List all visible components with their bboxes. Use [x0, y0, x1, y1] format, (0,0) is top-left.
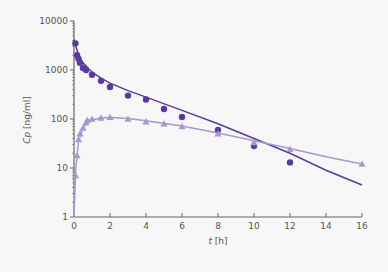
- x-tick-label: 8: [215, 221, 221, 231]
- circle-marker: [72, 40, 78, 46]
- circle-marker: [161, 106, 167, 112]
- x-tick-label: 12: [284, 221, 295, 231]
- circle-marker: [107, 84, 113, 90]
- circle-marker: [179, 114, 185, 120]
- x-tick-label: 2: [107, 221, 113, 231]
- x-tick-label: 0: [71, 221, 77, 231]
- x-tick-label: 4: [143, 221, 149, 231]
- x-tick-label: 14: [320, 221, 332, 231]
- x-tick-label: 6: [179, 221, 185, 231]
- circle-marker: [89, 72, 95, 78]
- pk-chart: 1101001000100000246810121416 t [h] Cp [n…: [0, 0, 388, 272]
- circle-marker: [125, 92, 131, 98]
- y-tick-label: 1: [62, 212, 68, 222]
- y-tick-label: 1000: [45, 65, 68, 75]
- circle-marker: [98, 78, 104, 84]
- y-tick-label: 10: [57, 163, 69, 173]
- x-tick-label: 10: [248, 221, 260, 231]
- y-tick-label: 10000: [39, 16, 68, 26]
- circle-marker: [287, 159, 293, 165]
- x-axis-title: t [h]: [208, 236, 227, 246]
- y-tick-label: 100: [51, 114, 68, 124]
- y-axis-title: Cp [ng/ml]: [22, 96, 32, 144]
- circle-marker: [143, 96, 149, 102]
- x-tick-label: 16: [356, 221, 368, 231]
- chart-background: [0, 0, 388, 272]
- circle-marker: [83, 67, 89, 73]
